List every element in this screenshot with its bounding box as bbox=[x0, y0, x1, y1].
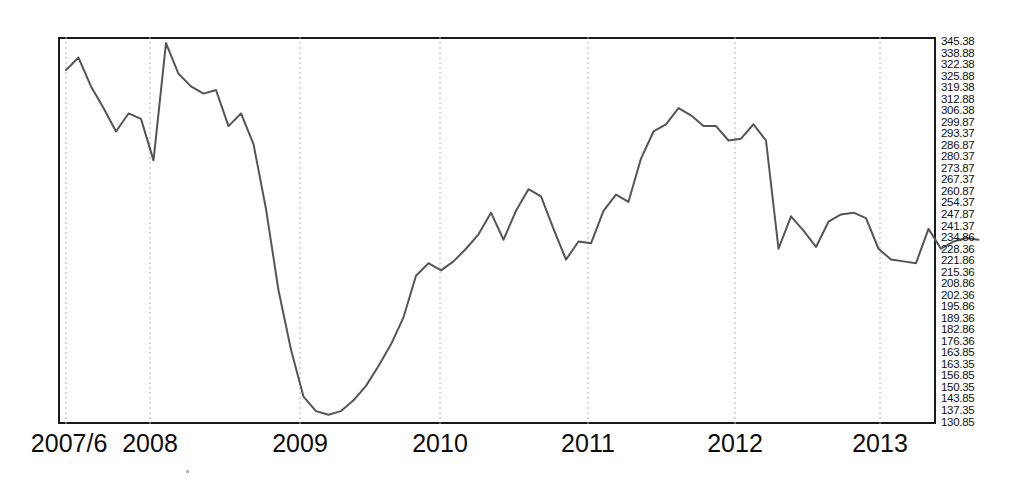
y-axis-tick-label: 319.38 bbox=[941, 82, 974, 93]
y-axis-tick-label: 202.36 bbox=[941, 290, 974, 301]
y-axis-tick-label: 286.87 bbox=[941, 140, 974, 151]
x-axis-tick-labels: 2007/6200820092010201120122013 bbox=[0, 428, 1019, 464]
x-axis-tick-label: 2007/6 bbox=[31, 428, 107, 458]
y-axis-tick-label: 156.85 bbox=[941, 370, 974, 381]
y-axis-tick-label: 150.35 bbox=[941, 382, 974, 393]
x-axis-tick-label: 2008 bbox=[122, 428, 178, 458]
y-axis-tick-label: 267.37 bbox=[941, 174, 974, 185]
y-axis-tick-label: 130.85 bbox=[941, 417, 974, 428]
y-axis-tick-label: 228.36 bbox=[941, 244, 974, 255]
gridlines bbox=[66, 37, 880, 424]
line-chart: 345.38338.88322.38325.88319.38312.88306.… bbox=[0, 0, 1019, 486]
x-axis-tick-label: 2010 bbox=[412, 428, 468, 458]
y-axis-tick-label: 143.85 bbox=[941, 393, 974, 404]
y-axis-tick-label: 299.87 bbox=[941, 117, 974, 128]
y-axis-tick-label: 273.87 bbox=[941, 163, 974, 174]
y-axis-tick-label: 163.35 bbox=[941, 359, 974, 370]
y-axis-tick-labels: 345.38338.88322.38325.88319.38312.88306.… bbox=[941, 36, 1019, 428]
y-axis-tick-label: 322.38 bbox=[941, 59, 974, 70]
y-axis-tick-label: 280.37 bbox=[941, 151, 974, 162]
y-axis-tick-label: 137.35 bbox=[941, 405, 974, 416]
plot-area bbox=[58, 37, 936, 424]
y-axis-tick-label: 254.37 bbox=[941, 197, 974, 208]
y-axis-tick-label: 247.87 bbox=[941, 209, 974, 220]
y-axis-tick-label: 338.88 bbox=[941, 48, 974, 59]
data-series-line bbox=[66, 43, 979, 415]
y-axis-tick-label: 260.87 bbox=[941, 186, 974, 197]
y-axis-tick-label: 195.86 bbox=[941, 301, 974, 312]
y-axis-tick-label: 234.86 bbox=[941, 232, 974, 243]
y-axis-tick-label: 306.38 bbox=[941, 105, 974, 116]
y-axis-tick-label: 312.88 bbox=[941, 94, 974, 105]
y-axis-tick-label: 163.85 bbox=[941, 347, 974, 358]
y-axis-tick-label: 208.86 bbox=[941, 278, 974, 289]
scan-speck bbox=[186, 470, 189, 473]
y-axis-tick-label: 345.38 bbox=[941, 36, 974, 47]
y-axis-tick-label: 189.36 bbox=[941, 313, 974, 324]
y-axis-tick-label: 241.37 bbox=[941, 221, 974, 232]
y-axis-tick-label: 293.37 bbox=[941, 128, 974, 139]
x-axis-tick-label: 2013 bbox=[852, 428, 908, 458]
y-axis-tick-label: 182.86 bbox=[941, 324, 974, 335]
x-axis-tick-label: 2011 bbox=[561, 428, 615, 458]
x-axis-tick-label: 2009 bbox=[272, 428, 328, 458]
y-axis-tick-label: 325.88 bbox=[941, 71, 974, 82]
x-axis-tick-label: 2012 bbox=[707, 428, 763, 458]
y-axis-tick-label: 176.36 bbox=[941, 336, 974, 347]
y-axis-tick-label: 221.86 bbox=[941, 255, 974, 266]
y-axis-tick-label: 215.36 bbox=[941, 267, 974, 278]
